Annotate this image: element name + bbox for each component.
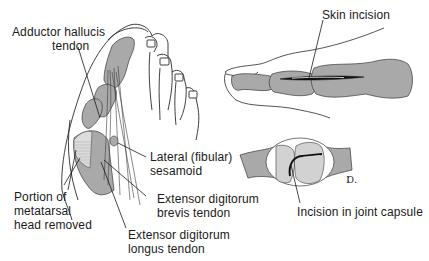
- toe-lateral-illustration: [224, 28, 412, 118]
- label-joint-capsule-incision: Incision in joint capsule: [297, 205, 423, 219]
- metatarsal-head: [74, 131, 114, 195]
- label-line: brevis tendon: [157, 206, 259, 220]
- label-line: Extensor digitorum: [128, 228, 230, 242]
- label-adductor-hallucis: Adductor hallucis tendon: [12, 25, 105, 53]
- artist-signature: Ɒ.: [346, 173, 357, 187]
- label-line: Portion of: [14, 190, 92, 204]
- label-extensor-brevis: Extensor digitorum brevis tendon: [157, 192, 259, 220]
- label-line: Extensor digitorum: [157, 192, 259, 206]
- joint-capsule-illustration: [240, 138, 352, 186]
- label-line: metatarsal: [14, 204, 92, 218]
- label-line: head removed: [14, 218, 92, 232]
- label-line: sesamoid: [150, 164, 232, 178]
- label-line: longus tendon: [128, 242, 230, 256]
- lateral-sesamoid: [110, 136, 118, 146]
- label-line: Lateral (fibular): [150, 150, 232, 164]
- label-portion-metatarsal: Portion of metatarsal head removed: [14, 190, 92, 232]
- label-extensor-longus: Extensor digitorum longus tendon: [128, 228, 230, 256]
- label-line: Adductor hallucis: [12, 25, 105, 39]
- anatomical-figure: Adductor hallucis tendon Lateral (fibula…: [0, 0, 429, 261]
- label-lateral-sesamoid: Lateral (fibular) sesamoid: [150, 150, 232, 178]
- label-line: tendon: [12, 39, 105, 53]
- label-skin-incision: Skin incision: [322, 8, 390, 22]
